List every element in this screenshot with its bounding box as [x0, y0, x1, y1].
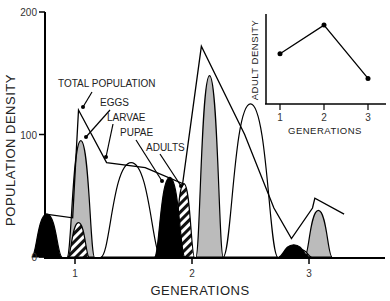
- x-axis-label: GENERATIONS: [150, 283, 249, 298]
- x-tick-label-1: 1: [72, 268, 78, 279]
- inset-point-3: [366, 76, 371, 81]
- population-chart: 0100200123 POPULATION DENSITY GENERATION…: [0, 0, 390, 301]
- annotation-arrowhead-1: [81, 105, 85, 109]
- annotation-arrowhead-5: [179, 184, 183, 188]
- area-adults-gen1: [32, 214, 62, 257]
- annotation-arrowhead-4: [160, 179, 164, 183]
- x-tick-label-3: 3: [306, 268, 312, 279]
- inset-x-tick-label-2: 2: [321, 112, 327, 123]
- annotation-arrowhead-3: [104, 155, 108, 159]
- inset-x-tick-label-3: 3: [365, 112, 371, 123]
- inset-point-1: [278, 51, 283, 56]
- annotation-total-population: TOTAL POPULATION: [58, 78, 155, 89]
- y-axis-label: POPULATION DENSITY: [3, 74, 18, 226]
- annotation-larvae: LARVAE: [107, 112, 146, 123]
- area-eggs-gen2: [196, 76, 223, 257]
- area-eggs-gen3: [305, 210, 332, 257]
- y-tick-label-200: 200: [20, 7, 37, 18]
- inset-adult-density-line: [280, 25, 368, 78]
- annotation-eggs: EGGS: [100, 97, 129, 108]
- x-tick-label-2: 2: [189, 268, 195, 279]
- area-larvae-gen2: [223, 104, 278, 257]
- inset-chart: 123: [265, 14, 386, 123]
- annotation-arrow-1: [83, 92, 92, 107]
- annotation-arrowhead-2: [84, 135, 88, 139]
- y-tick-label-0: 0: [31, 252, 37, 263]
- inset-y-axis-label: ADULT DENSITY: [249, 20, 260, 101]
- y-tick-label-100: 100: [20, 130, 37, 141]
- annotation-arrow-3: [106, 124, 113, 157]
- inset-x-axis-label: GENERATIONS: [288, 125, 362, 136]
- inset-point-2: [322, 23, 327, 28]
- annotation-adults: ADULTS: [146, 142, 185, 153]
- annotation-pupae: PUPAE: [120, 127, 153, 138]
- area-larvae-gen1: [101, 163, 162, 257]
- inset-x-tick-label-1: 1: [277, 112, 283, 123]
